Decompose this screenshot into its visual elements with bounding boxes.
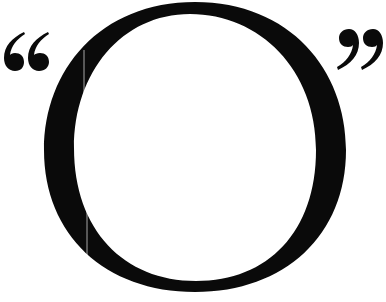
open-quote-icon (4, 32, 49, 71)
close-quote-icon (337, 29, 383, 70)
letter-o (44, 2, 346, 292)
quoted-o-svg (0, 0, 386, 302)
